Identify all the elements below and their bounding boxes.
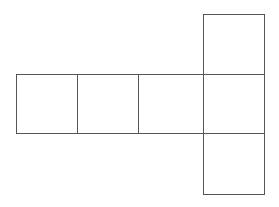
face-left-3 — [139, 75, 204, 134]
face-top — [204, 15, 265, 75]
cube-net-diagram — [0, 0, 279, 207]
face-left-1 — [17, 75, 78, 134]
face-bottom — [204, 134, 265, 195]
face-center — [204, 75, 265, 134]
face-left-2 — [78, 75, 139, 134]
